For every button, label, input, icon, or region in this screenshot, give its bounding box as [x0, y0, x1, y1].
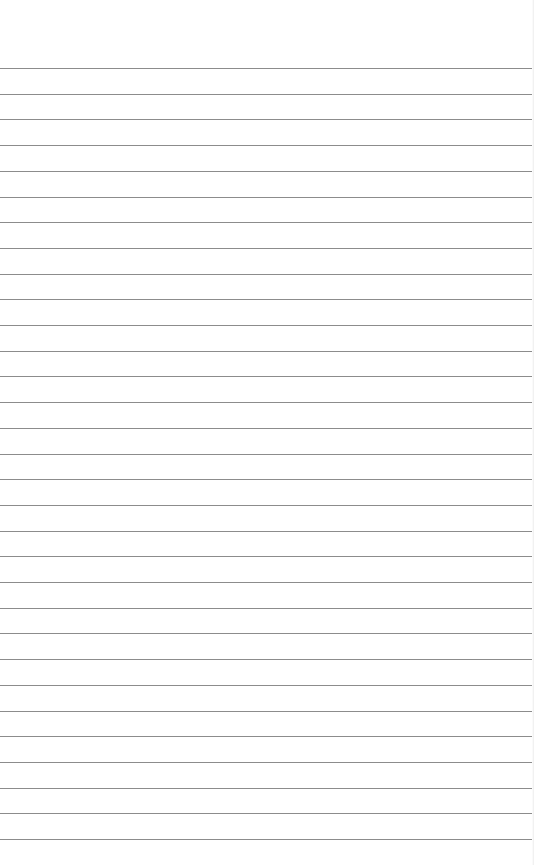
ruled-line — [0, 633, 534, 634]
ruled-line — [0, 68, 534, 69]
ruled-line — [0, 582, 534, 583]
ruled-line — [0, 839, 534, 840]
ruled-line — [0, 659, 534, 660]
ruled-line — [0, 556, 534, 557]
ruled-line — [0, 762, 534, 763]
ruled-line — [0, 171, 534, 172]
lined-paper — [0, 0, 534, 865]
ruled-line — [0, 248, 534, 249]
ruled-line — [0, 402, 534, 403]
ruled-line — [0, 325, 534, 326]
ruled-line — [0, 299, 534, 300]
ruled-line — [0, 531, 534, 532]
ruled-line — [0, 222, 534, 223]
ruled-line — [0, 608, 534, 609]
ruled-line — [0, 736, 534, 737]
ruled-line — [0, 813, 534, 814]
ruled-line — [0, 274, 534, 275]
ruled-line — [0, 454, 534, 455]
ruled-line — [0, 94, 534, 95]
ruled-line — [0, 505, 534, 506]
ruled-line — [0, 685, 534, 686]
ruled-line — [0, 711, 534, 712]
ruled-line — [0, 788, 534, 789]
ruled-line — [0, 197, 534, 198]
ruled-line — [0, 376, 534, 377]
ruled-line — [0, 351, 534, 352]
ruled-line — [0, 119, 534, 120]
ruled-line — [0, 479, 534, 480]
ruled-line — [0, 428, 534, 429]
ruled-line — [0, 145, 534, 146]
